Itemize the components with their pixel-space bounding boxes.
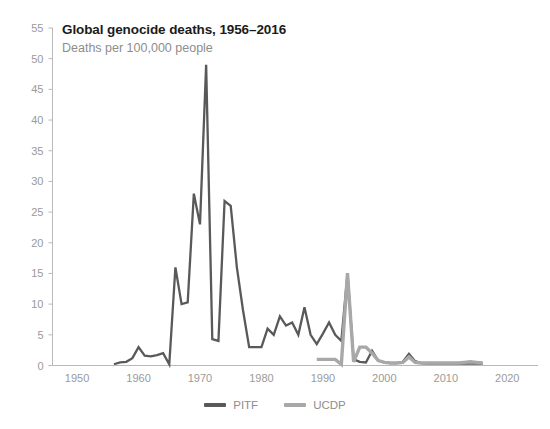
chart-legend: PITF UCDP	[0, 399, 550, 411]
x-tick-label: 1970	[188, 372, 212, 384]
y-tick-label: 50	[31, 53, 43, 65]
y-tick-label: 30	[31, 175, 43, 187]
y-tick-label: 5	[37, 329, 43, 341]
legend-swatch-ucdp	[284, 403, 306, 407]
x-tick-label: 2010	[434, 372, 458, 384]
y-tick-label: 0	[37, 360, 43, 372]
series-line-pitf	[114, 65, 483, 364]
y-tick-label: 55	[31, 22, 43, 34]
y-tick-label: 20	[31, 237, 43, 249]
y-axis-ticks: 0510152025303540455055	[31, 22, 52, 372]
x-tick-label: 1990	[311, 372, 335, 384]
legend-label-ucdp: UCDP	[313, 399, 346, 411]
data-series-group	[114, 65, 483, 364]
x-tick-label: 1960	[126, 372, 150, 384]
y-tick-label: 40	[31, 114, 43, 126]
x-axis: 19501960197019801990200020102020	[53, 366, 539, 384]
y-tick-label: 45	[31, 83, 43, 95]
x-tick-label: 1980	[249, 372, 273, 384]
x-tick-label: 2000	[372, 372, 396, 384]
y-tick-label: 15	[31, 267, 43, 279]
series-line-ucdp	[317, 273, 483, 364]
legend-item-ucdp[interactable]: UCDP	[284, 399, 346, 411]
x-axis-ticks: 19501960197019801990200020102020	[65, 372, 520, 384]
legend-label-pitf: PITF	[233, 399, 258, 411]
x-tick-label: 1950	[65, 372, 89, 384]
y-tick-label: 10	[31, 298, 43, 310]
x-tick-label: 2020	[495, 372, 519, 384]
chart-container: Global genocide deaths, 1956–2016 Deaths…	[0, 0, 550, 429]
legend-item-pitf[interactable]: PITF	[204, 399, 258, 411]
y-tick-label: 25	[31, 206, 43, 218]
y-tick-label: 35	[31, 145, 43, 157]
chart-plot-area: 0510152025303540455055 19501960197019801…	[0, 0, 550, 429]
y-axis: 0510152025303540455055	[31, 22, 52, 372]
legend-swatch-pitf	[204, 403, 226, 407]
